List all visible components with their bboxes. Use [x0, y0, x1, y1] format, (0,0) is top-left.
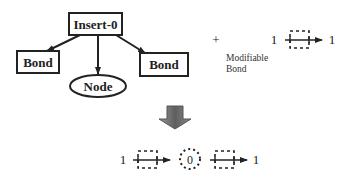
result-bond-left-icon — [133, 151, 170, 168]
child-bond-right-label: Bond — [149, 57, 179, 72]
result-center-node-icon: 0 — [180, 149, 200, 169]
child-bond-left: Bond — [17, 51, 59, 73]
edge-right-arrow — [116, 35, 145, 53]
plus-sign: + — [212, 32, 219, 47]
insert-root-node: Insert-0 — [69, 13, 122, 35]
result-bond-right-icon — [210, 151, 247, 168]
child-bond-right: Bond — [140, 53, 188, 76]
result-left-label: 1 — [120, 152, 127, 167]
modifiable-caption-line1: Modifiable — [226, 53, 268, 63]
modifiable-bond-icon — [285, 31, 322, 48]
child-node-label: Node — [84, 79, 113, 94]
child-node-ellipse: Node — [70, 75, 126, 97]
edge-left-arrow — [47, 35, 80, 51]
result-right-label: 1 — [253, 152, 260, 167]
diagram-canvas: Insert-0 Bond Node Bond + Modifiable Bon… — [0, 0, 351, 179]
tree-edges — [47, 35, 145, 74]
modifiable-caption-line2: Bond — [226, 64, 247, 74]
insert-root-label: Insert-0 — [73, 17, 117, 32]
result-center-node-label: 0 — [187, 153, 193, 167]
transform-down-arrow-icon — [159, 106, 191, 129]
child-bond-left-label: Bond — [23, 55, 53, 70]
modifiable-right-label: 1 — [329, 32, 336, 47]
modifiable-left-label: 1 — [271, 32, 278, 47]
